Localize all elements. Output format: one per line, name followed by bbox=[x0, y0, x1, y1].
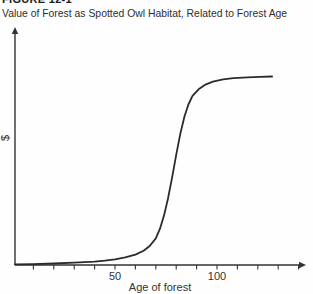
y-axis-title: $ bbox=[0, 135, 11, 141]
sigmoid-curve bbox=[15, 77, 272, 265]
x-tick-label: 100 bbox=[208, 270, 226, 282]
x-axis-title: Age of forest bbox=[129, 281, 191, 293]
x-axis-arrowhead-icon bbox=[299, 262, 306, 268]
habitat-value-chart: 50100 Age of forest $ bbox=[0, 0, 313, 294]
x-tick-label: 50 bbox=[109, 270, 121, 282]
y-axis-arrowhead-icon bbox=[12, 27, 18, 34]
